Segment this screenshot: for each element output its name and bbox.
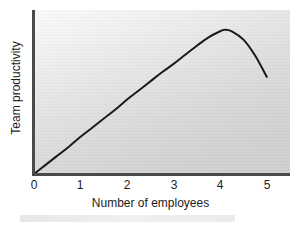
x-tick-label-0: 0 [22, 178, 46, 192]
x-axis-line [32, 173, 290, 176]
y-axis-title: Team productivity [9, 41, 23, 134]
y-axis-line [32, 10, 35, 175]
x-tick-label-1: 1 [68, 178, 92, 192]
chart-figure: 0 1 2 3 4 5 Number of employees Team pro… [0, 0, 301, 225]
x-tick-label-2: 2 [115, 178, 139, 192]
page-scan-band [20, 215, 235, 222]
plot-area [34, 10, 290, 174]
y-axis-title-container: Team productivity [0, 0, 32, 176]
x-tick-label-3: 3 [162, 178, 186, 192]
productivity-curve [34, 30, 267, 174]
x-tick-label-4: 4 [208, 178, 232, 192]
x-tick-label-5: 5 [255, 178, 279, 192]
curve-svg [34, 10, 290, 174]
x-axis-title: Number of employees [0, 196, 301, 210]
